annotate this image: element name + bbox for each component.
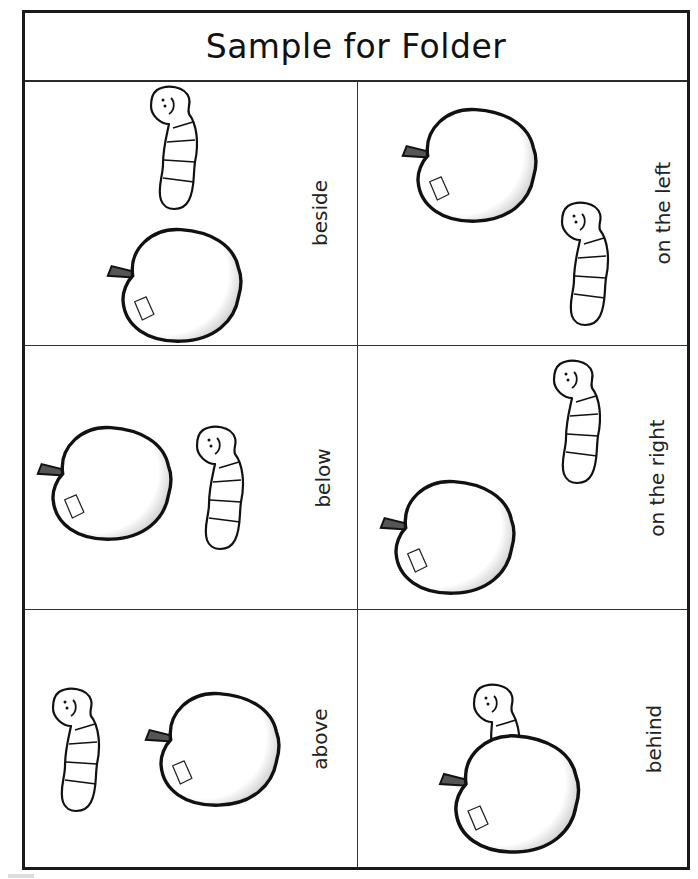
- worm-icon: [548, 358, 608, 488]
- cell-below: below: [25, 346, 358, 610]
- apple-icon: [436, 726, 586, 856]
- worm-icon: [145, 84, 205, 214]
- title-band: Sample for Folder: [25, 13, 687, 82]
- worksheet: Sample for Folder beside on the left bel…: [22, 10, 690, 870]
- cell-beside: beside: [25, 80, 358, 346]
- cell-on-the-left: on the left: [358, 80, 687, 346]
- cell-above: above: [25, 610, 358, 867]
- worm-icon: [191, 424, 251, 554]
- worm-icon: [556, 200, 616, 330]
- preposition-label: below: [311, 448, 335, 507]
- preposition-grid: beside on the left below on the right ab…: [25, 80, 687, 867]
- preposition-label: on the right: [645, 419, 669, 536]
- preposition-label: behind: [642, 704, 666, 773]
- cell-behind: behind: [358, 610, 687, 867]
- preposition-label: beside: [308, 180, 332, 246]
- worm-icon: [47, 686, 107, 816]
- cell-on-the-right: on the right: [358, 346, 687, 610]
- scan-footer-mark: [8, 874, 34, 878]
- worksheet-title: Sample for Folder: [206, 27, 507, 66]
- apple-icon: [374, 472, 524, 597]
- apple-icon: [31, 418, 181, 543]
- apple-icon: [396, 100, 546, 225]
- apple-icon: [139, 684, 289, 809]
- preposition-label: on the left: [651, 161, 675, 264]
- apple-icon: [101, 220, 251, 345]
- preposition-label: above: [308, 708, 332, 769]
